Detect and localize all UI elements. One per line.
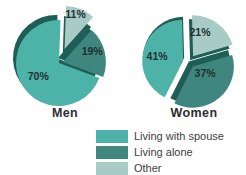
legend-label-other: Other — [134, 162, 162, 175]
women-pie-caption: Women — [126, 106, 246, 120]
legend-label-living-alone: Living alone — [134, 146, 193, 159]
pie-slice-percent-label-other: 11% — [65, 8, 86, 20]
legend-swatch-other — [96, 162, 128, 175]
legend-row-living-alone: Living alone — [96, 146, 224, 159]
legend-row-other: Other — [96, 162, 224, 175]
pie-slice-percent-label-other: 21% — [189, 26, 211, 38]
legend-swatch-living-with-spouse — [96, 130, 128, 143]
chart-legend: Living with spouse Living alone Other — [96, 130, 224, 175]
pie-slice-percent-label-alone: 19% — [82, 45, 104, 57]
pie-slice-percent-label-spouse: 70% — [28, 70, 50, 82]
men-pie-caption: Men — [0, 106, 130, 120]
pie-slice-percent-label-alone: 37% — [195, 67, 217, 79]
dual-pie-chart-figure: 70%19%11% 41%37%21% Men Women Living wit… — [0, 0, 246, 175]
pie-slice-percent-label-spouse: 41% — [147, 50, 169, 62]
legend-row-living-with-spouse: Living with spouse — [96, 130, 224, 143]
legend-label-living-with-spouse: Living with spouse — [134, 130, 224, 143]
legend-swatch-living-alone — [96, 146, 128, 159]
